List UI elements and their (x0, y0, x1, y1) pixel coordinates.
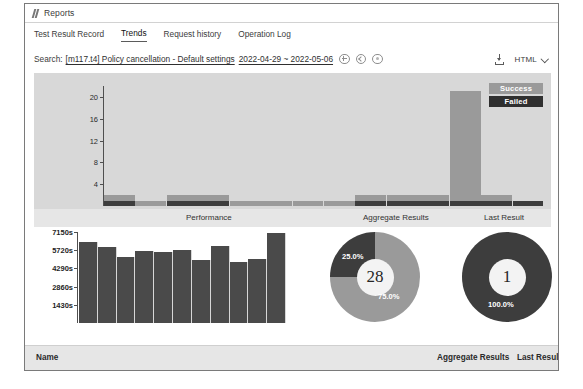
trends-bar-failed (513, 201, 544, 206)
search-filter-row: Search: [m117.t4] Policy cancellation - … (25, 47, 558, 71)
duration-bar (267, 233, 286, 323)
trends-y-tick-label: 12 (76, 137, 98, 146)
duration-bar (154, 252, 173, 323)
column-header-row: Performance Aggregate Results Last Resul… (34, 209, 551, 227)
column-header-performance: Performance (186, 213, 232, 222)
trends-bar-failed (167, 201, 198, 206)
trends-y-tick-label: 16 (76, 115, 98, 124)
duration-y-tick-label: 7150s (42, 228, 73, 237)
trends-bar-failed (481, 201, 512, 206)
last-result-failed-percent: 100.0% (488, 300, 514, 309)
aggregate-failed-percent: 25.0% (342, 252, 364, 261)
trends-bar-failed (355, 201, 386, 206)
reports-window: Reports Test Result Record Trends Reques… (24, 3, 559, 371)
trends-y-tick-mark (100, 141, 103, 142)
script-icon (32, 9, 40, 18)
duration-bar (117, 257, 136, 323)
trends-bar-failed (418, 201, 449, 206)
trends-bar-failed (104, 201, 135, 206)
trends-bar-failed (450, 201, 481, 206)
back-circle-icon[interactable] (356, 54, 367, 65)
duration-bar-chart: 1430s2860s4290s5720s7150s (34, 227, 299, 335)
bottom-charts-region: 1430s2860s4290s5720s7150s 28 25.0% 75.0%… (34, 227, 551, 335)
search-query-link[interactable]: [m117.t4] Policy cancellation - Default … (66, 54, 235, 64)
aggregate-donut-ring: 28 (330, 232, 420, 322)
trends-bar-success (387, 195, 418, 200)
window-title: Reports (44, 8, 74, 18)
last-result-donut-center-value: 1 (489, 259, 526, 296)
duration-y-tick-label: 1430s (42, 301, 73, 310)
trends-y-tick-mark (100, 162, 103, 163)
column-header-last-result: Last Result (484, 213, 524, 222)
duration-y-tick-label: 2860s (42, 283, 73, 292)
trends-bar-failed (387, 201, 418, 206)
tab-request-history[interactable]: Request history (164, 29, 222, 42)
trends-y-tick-label: 20 (76, 93, 98, 102)
footer-row: Name Aggregate Results Last Result (25, 345, 558, 370)
trends-bar-success (418, 195, 449, 200)
trends-bar-success (261, 201, 292, 206)
trends-bar-success (324, 201, 355, 206)
duration-y-tick-mark (74, 305, 78, 306)
trends-chart-plot: 48121620 (34, 73, 551, 209)
last-result-donut[interactable]: 1 100.0% (454, 230, 554, 330)
trends-bar-success (355, 195, 386, 200)
aggregate-donut-center-value: 28 (357, 259, 394, 296)
trends-bar-failed (198, 201, 229, 206)
add-circle-icon[interactable] (339, 54, 350, 65)
aggregate-results-donut[interactable]: 28 25.0% 75.0% (322, 230, 422, 330)
trends-bar-success (230, 201, 261, 206)
trends-bar-success (481, 195, 512, 200)
download-icon[interactable] (494, 54, 505, 65)
duration-y-tick-label: 5720s (42, 246, 73, 255)
trends-y-tick-label: 4 (76, 180, 98, 189)
duration-y-axis (77, 232, 78, 323)
search-date-range-link[interactable]: 2022-04-29 ~ 2022-05-06 (239, 54, 333, 64)
duration-bar (192, 260, 211, 323)
trends-y-tick-mark (100, 97, 103, 98)
chevron-down-icon[interactable] (542, 56, 548, 62)
duration-y-tick-mark (74, 250, 78, 251)
trends-chart-panel: 48121620 Success Failed (34, 73, 551, 209)
tab-test-result-record[interactable]: Test Result Record (34, 29, 104, 42)
footer-label-aggregate-results: Aggregate Results (437, 353, 509, 362)
trends-bar-success (167, 195, 198, 200)
window-title-bar: Reports (25, 4, 558, 23)
duration-y-tick-mark (74, 232, 78, 233)
legend-item-failed[interactable]: Failed (489, 96, 543, 107)
duration-bar (248, 259, 267, 323)
trends-y-tick-label: 8 (76, 158, 98, 167)
footer-label-last-result: Last Result (517, 353, 559, 362)
trends-bar-success (104, 195, 135, 200)
export-format-label[interactable]: HTML (514, 55, 537, 64)
duration-bar (173, 250, 192, 323)
duration-y-tick-mark (74, 287, 78, 288)
duration-y-tick-label: 4290s (42, 264, 73, 273)
clear-circle-icon[interactable] (372, 54, 383, 65)
legend-item-success[interactable]: Success (489, 83, 543, 94)
trends-bar-success (198, 195, 229, 200)
duration-y-tick-mark (74, 268, 78, 269)
duration-bar (211, 246, 230, 323)
duration-bar (98, 247, 117, 323)
tab-operation-log[interactable]: Operation Log (238, 29, 291, 42)
trends-bar-success (450, 91, 481, 200)
tab-strip: Test Result Record Trends Request histor… (25, 23, 558, 47)
search-label: Search: (34, 54, 63, 64)
trends-bar-success (293, 201, 324, 206)
duration-bar (79, 242, 98, 323)
column-header-aggregate-results: Aggregate Results (363, 213, 429, 222)
duration-bar (230, 262, 249, 323)
trends-y-tick-mark (100, 184, 103, 185)
aggregate-success-percent: 75.0% (378, 292, 400, 301)
duration-bar (135, 251, 154, 323)
tab-trends[interactable]: Trends (121, 28, 147, 42)
trends-legend: Success Failed (489, 83, 543, 109)
trends-y-axis (103, 86, 104, 206)
footer-label-name: Name (36, 353, 58, 362)
trends-y-tick-mark (100, 119, 103, 120)
trends-bar-success (135, 201, 166, 206)
